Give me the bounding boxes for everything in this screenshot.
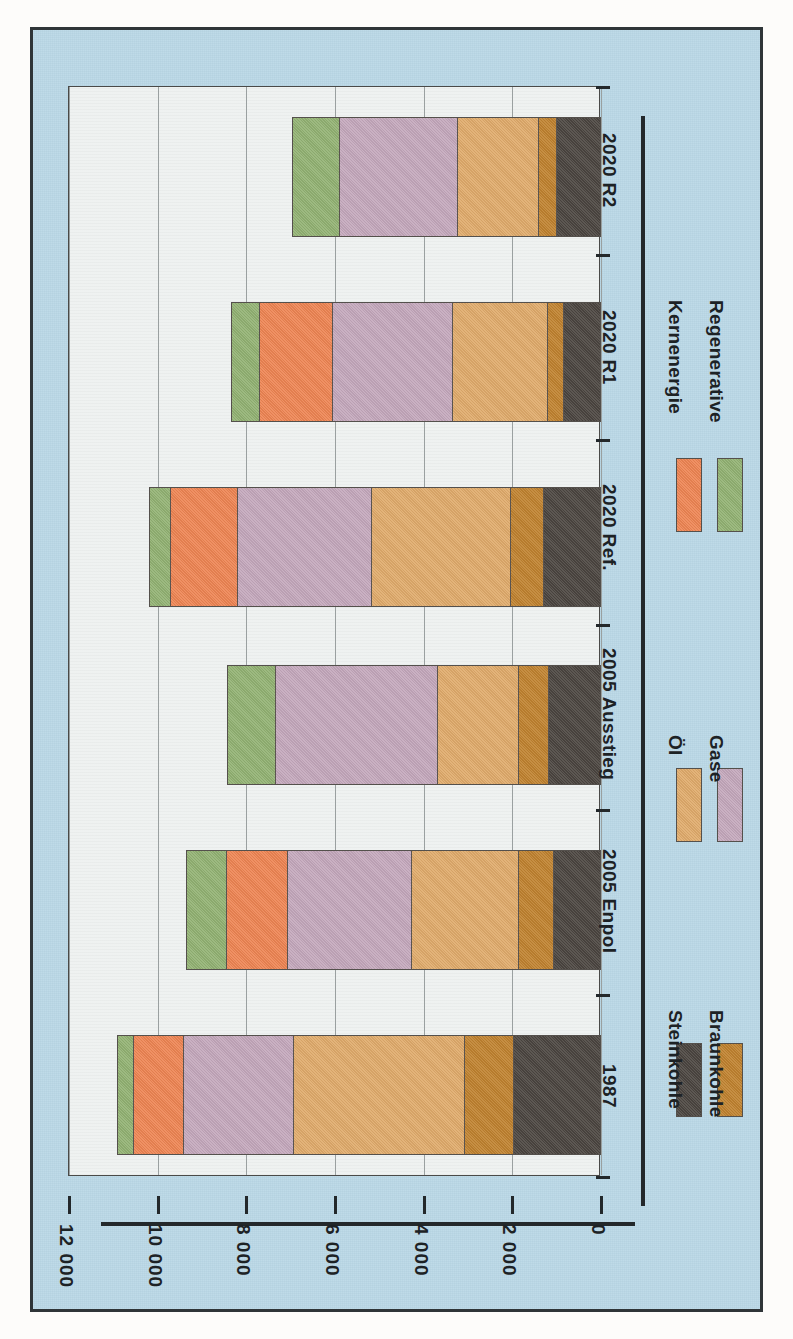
category-tick: [596, 994, 610, 997]
bar-2005-enpol: [186, 850, 601, 970]
legend-label-steinkohle: Steinkohle: [664, 1010, 686, 1109]
bar-segment-steinkohle: [544, 488, 600, 606]
bar-segment-kernenergie: [134, 1036, 184, 1154]
bar-2005-ausstieg: [227, 665, 601, 785]
category-tick: [596, 624, 610, 627]
bar-segment-steinkohle: [564, 303, 600, 421]
value-tick: [245, 1196, 248, 1214]
bar-segment-braunkohle: [548, 303, 564, 421]
gridline: [158, 87, 159, 1175]
category-axis: [641, 116, 645, 1206]
bar-segment-regenerative: [293, 118, 340, 236]
bar-segment-steinkohle: [514, 1036, 600, 1154]
bar-segment-gase: [238, 488, 372, 606]
bar-segment--l: [372, 488, 511, 606]
bar-segment--l: [453, 303, 548, 421]
category-tick: [596, 1176, 610, 1179]
value-tick: [423, 1196, 426, 1214]
bar-segment-regenerative: [187, 851, 227, 969]
gridline: [601, 87, 602, 1175]
value-tick-label: 4 000: [410, 1224, 432, 1277]
value-tick-label: 0: [587, 1224, 609, 1236]
bar-2020-r1: [231, 302, 601, 422]
legend-label-braunkohle: Braunkohle: [705, 1010, 727, 1118]
category-label-2020-r1: 2020 R1: [598, 310, 620, 385]
legend-swatch-kernenergie: [676, 458, 702, 532]
bar-2020-ref-: [149, 487, 601, 607]
legend-swatch--l: [676, 768, 702, 842]
bar-segment-kernenergie: [171, 488, 238, 606]
value-tick: [68, 1196, 71, 1214]
category-tick: [596, 254, 610, 257]
value-tick: [600, 1196, 603, 1214]
bar-segment-braunkohle: [465, 1036, 514, 1154]
category-label-2005-ausstieg: 2005 Ausstieg: [598, 648, 620, 780]
bar-segment-steinkohle: [557, 118, 600, 236]
legend-label-kernenergie: Kernenergie: [664, 300, 686, 414]
legend-label-regenerative: Regenerative: [705, 300, 727, 423]
bar-segment-braunkohle: [511, 488, 545, 606]
bar-segment-regenerative: [150, 488, 171, 606]
chart-plate: 19872005 Enpol2005 Ausstieg2020 Ref.2020…: [30, 27, 763, 1312]
category-label-2005-enpol: 2005 Enpol: [598, 849, 620, 953]
value-tick: [334, 1196, 337, 1214]
category-tick: [596, 809, 610, 812]
legend-label-gase: Gase: [705, 735, 727, 783]
gridline: [69, 87, 70, 1175]
bar-segment-gase: [288, 851, 413, 969]
bar-segment-braunkohle: [519, 666, 549, 784]
legend-swatch-regenerative: [717, 458, 743, 532]
value-axis: [101, 1222, 635, 1226]
category-label-2020-ref-: 2020 Ref.: [598, 484, 620, 571]
bar-segment-regenerative: [118, 1036, 134, 1154]
bar-segment-regenerative: [232, 303, 260, 421]
value-tick-label: 2 000: [498, 1224, 520, 1277]
bar-segment--l: [438, 666, 519, 784]
value-tick: [511, 1196, 514, 1214]
bar-segment--l: [458, 118, 539, 236]
value-tick-label: 10 000: [144, 1224, 166, 1288]
legend-label--l: Öl: [664, 735, 686, 756]
category-tick: [596, 86, 610, 89]
bar-1987: [117, 1035, 601, 1155]
bar-segment-kernenergie: [227, 851, 288, 969]
bar-2020-r2: [292, 117, 601, 237]
value-tick-label: 6 000: [321, 1224, 343, 1277]
bar-segment-steinkohle: [554, 851, 600, 969]
bar-segment-braunkohle: [519, 851, 555, 969]
category-tick: [596, 439, 610, 442]
gridline: [424, 87, 425, 1175]
bar-segment--l: [412, 851, 519, 969]
gridline: [512, 87, 513, 1175]
value-tick: [157, 1196, 160, 1214]
bar-segment-gase: [340, 118, 458, 236]
bar-segment-gase: [184, 1036, 294, 1154]
category-label-2020-r2: 2020 R2: [598, 133, 620, 208]
value-tick-label: 12 000: [55, 1224, 77, 1288]
category-label-1987: 1987: [598, 1064, 620, 1108]
bar-segment-steinkohle: [549, 666, 600, 784]
plot-panel: [68, 86, 600, 1176]
gridline: [335, 87, 336, 1175]
bar-segment-gase: [333, 303, 453, 421]
bar-segment-kernenergie: [260, 303, 333, 421]
bar-segment-regenerative: [228, 666, 276, 784]
value-tick-label: 8 000: [232, 1224, 254, 1277]
bar-segment--l: [294, 1036, 466, 1154]
bar-segment-gase: [276, 666, 438, 784]
panel-texture: [69, 87, 599, 1175]
bar-segment-braunkohle: [539, 118, 557, 236]
gridline: [246, 87, 247, 1175]
